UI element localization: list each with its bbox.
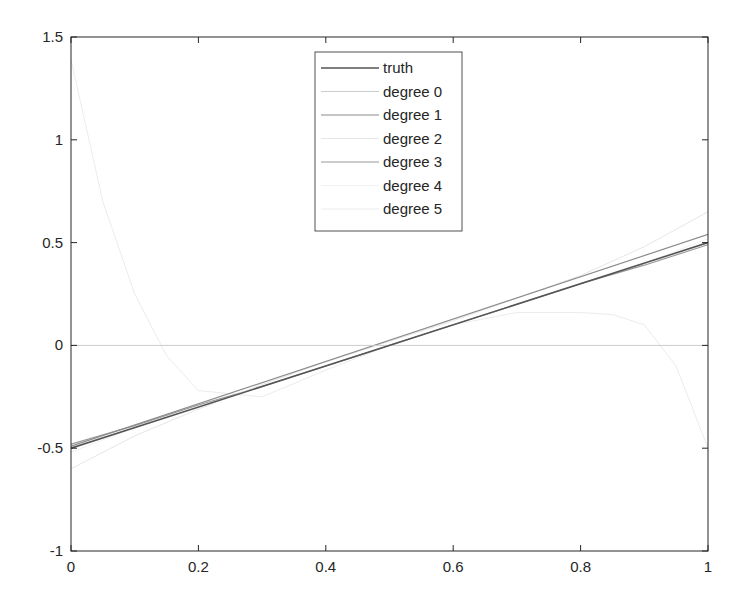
series-line-degree-1: [71, 234, 708, 446]
x-tick-label: 0.2: [188, 558, 209, 575]
legend-label: degree 4: [383, 177, 442, 194]
x-tick-label: 0.8: [570, 558, 591, 575]
y-tick-label: 0: [55, 336, 63, 353]
legend-label: truth: [383, 59, 413, 76]
x-tick-label: 0.4: [315, 558, 336, 575]
y-tick-label: -0.5: [37, 439, 63, 456]
y-tick-label: 0.5: [42, 234, 63, 251]
legend-label: degree 5: [383, 200, 442, 217]
legend-label: degree 1: [383, 106, 442, 123]
legend-label: degree 3: [383, 153, 442, 170]
x-tick-label: 1: [704, 558, 712, 575]
legend-label: degree 2: [383, 130, 442, 147]
x-tick-label: 0.6: [443, 558, 464, 575]
y-tick-label: 1: [55, 131, 63, 148]
x-tick-label: 0: [67, 558, 75, 575]
y-tick-label: 1.5: [42, 28, 63, 45]
line-chart: 00.20.40.60.81 -1-0.500.511.5 truthdegre…: [0, 0, 735, 616]
y-tick-label: -1: [50, 542, 63, 559]
legend-label: degree 0: [383, 83, 442, 100]
legend: truthdegree 0degree 1degree 2degree 3deg…: [315, 52, 462, 231]
